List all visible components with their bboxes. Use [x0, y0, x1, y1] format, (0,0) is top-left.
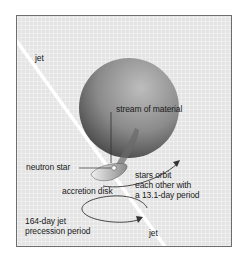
orbit-period-label: stars orbit each other with a 13.1-day p…	[135, 170, 199, 200]
accretion-disk-label: accretion disk	[62, 186, 113, 196]
diagram-frame: jet stream of material neutron star accr…	[16, 15, 232, 247]
accretion-disk	[91, 163, 127, 180]
jet-label-top: jet	[35, 53, 44, 63]
precession-arrowhead-icon	[136, 216, 143, 223]
stream-label: stream of material	[116, 104, 182, 114]
neutron-star	[112, 166, 117, 171]
diagram-artwork	[17, 16, 231, 246]
jet-label-bottom: jet	[149, 228, 158, 238]
neutron-star-label: neutron star	[26, 162, 70, 172]
precession-period-label: 164-day jet precession period	[25, 216, 90, 236]
